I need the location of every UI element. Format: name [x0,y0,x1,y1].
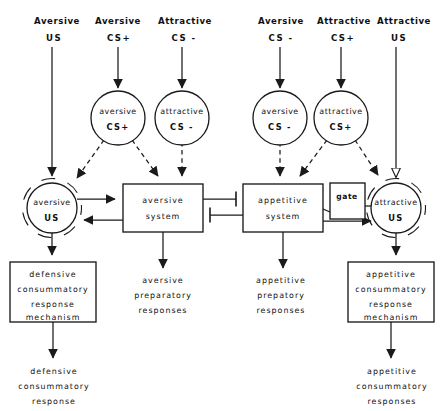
defensive-response-line1: defensive [30,367,77,376]
diagram-canvas: Aversive Aversive Attractive Aversive At… [0,0,446,411]
us-label-1-line2: US [44,213,59,223]
label-layer: Aversive Aversive Attractive Aversive At… [17,16,431,406]
cs-node-layer [91,91,368,145]
defensive-mechanism-line2: consummatory [17,285,88,294]
cs-label-1-line1: aversive [99,107,136,116]
defensive-response-line3: response [32,397,76,406]
us-label-1-line1: aversive [33,198,70,207]
appetitive-mechanism-line2: consummatory [355,285,426,294]
cs-label-1-line2: CS+ [106,122,129,132]
defensive-response-line2: consummatory [18,382,89,391]
cs-label-3-line1: aversive [261,107,298,116]
aversive-preparatory-line3: responses [139,306,188,315]
cs-node-attractive-csplus[interactable] [314,91,368,145]
box-gate[interactable] [330,183,365,219]
input-qualifier-3: Attractive [158,16,212,26]
us-label-2-line1: attractive [374,198,417,207]
systems-diagram: Aversive Aversive Attractive Aversive At… [0,0,446,411]
input-signal-5: CS+ [331,33,355,43]
appetitive-preparatory-line3: responses [257,306,306,315]
appetitive-preparatory-line1: appetitive [256,276,306,285]
appetitive-system-line1: appetitive [258,196,308,205]
appetitive-response-line3: responses [368,397,417,406]
appetitive-system-line2: system [266,212,301,221]
defensive-mechanism-line4: mechanism [26,313,81,322]
input-signal-4: CS - [269,33,294,43]
cs-node-attractive-csminus[interactable] [155,91,209,145]
input-qualifier-5: Attractive [317,16,371,26]
appetitive-response-line1: appetitive [367,367,417,376]
cs-node-aversive-csplus[interactable] [91,91,145,145]
input-signal-2: CS+ [107,33,131,43]
cs-label-3-line2: CS - [268,122,292,132]
dashed-link-aversive-csplus-to-aversive-us [77,140,104,178]
defensive-mechanism-line1: defensive [29,270,76,279]
cs-label-4-line2: CS+ [329,122,352,132]
cs-node-aversive-csminus[interactable] [253,91,307,145]
cs-label-2-line1: attractive [160,107,203,116]
aversive-preparatory-line1: aversive [142,276,183,285]
dashed-link-attractive-csplus-to-attractive-us [355,140,378,175]
gate-label: gate [336,192,357,201]
input-qualifier-6: Attractive [377,16,431,26]
aversive-preparatory-line2: preparatory [134,291,192,300]
defensive-mechanism-line3: response [31,300,75,309]
box-aversive-system[interactable] [123,184,203,232]
appetitive-response-line2: consummatory [356,382,427,391]
appetitive-preparatory-line2: prepatory [257,291,305,300]
appetitive-mechanism-line1: appetitive [366,270,416,279]
input-qualifier-4: Aversive [258,16,304,26]
us-label-2-line2: US [388,213,403,223]
appetitive-mechanism-line3: response [369,300,413,309]
us-node-aversive[interactable] [27,183,77,233]
input-qualifier-2: Aversive [95,16,141,26]
us-node-attractive[interactable] [371,183,421,233]
dashed-link-attractive-csplus-to-appetitive-system [300,140,327,176]
dashed-link-aversive-csplus-to-aversive-system [132,140,158,176]
cs-label-4-line1: attractive [319,107,362,116]
aversive-system-line1: aversive [142,196,183,205]
aversive-system-line2: system [146,212,181,221]
input-signal-6: US [391,33,407,43]
input-signal-1: US [46,33,62,43]
cs-label-2-line2: CS - [170,122,194,132]
input-qualifier-1: Aversive [34,16,80,26]
box-appetitive-system[interactable] [243,184,323,232]
appetitive-mechanism-line4: mechanism [364,313,419,322]
input-signal-3: CS - [172,33,197,43]
